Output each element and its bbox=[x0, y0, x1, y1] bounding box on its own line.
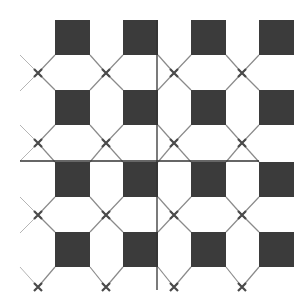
dark-square bbox=[123, 232, 158, 267]
cross-joint-icon bbox=[34, 69, 42, 77]
cross-joint-icon bbox=[238, 283, 246, 291]
dark-square bbox=[123, 162, 158, 197]
cross-joint-icon bbox=[170, 211, 178, 219]
dark-square bbox=[55, 162, 90, 197]
cross-joint-icon bbox=[170, 139, 178, 147]
dark-square bbox=[259, 162, 294, 197]
dark-square bbox=[55, 20, 90, 55]
dark-square bbox=[123, 20, 158, 55]
dark-square bbox=[191, 20, 226, 55]
cross-joint-icon bbox=[34, 139, 42, 147]
dark-square bbox=[191, 162, 226, 197]
cross-joint-icon bbox=[238, 69, 246, 77]
cross-joint-icon bbox=[102, 283, 110, 291]
dark-square bbox=[259, 90, 294, 125]
cross-joint-icon bbox=[238, 211, 246, 219]
dark-square bbox=[259, 20, 294, 55]
dark-square bbox=[191, 90, 226, 125]
cross-joint-icon bbox=[102, 139, 110, 147]
dark-square bbox=[123, 90, 158, 125]
cross-joint-icon bbox=[102, 211, 110, 219]
dark-square bbox=[259, 232, 294, 267]
cross-joint-icon bbox=[170, 69, 178, 77]
cross-joint-icon bbox=[170, 283, 178, 291]
tile-pattern-diagram bbox=[0, 0, 308, 304]
dark-square bbox=[55, 232, 90, 267]
pattern-svg bbox=[0, 0, 308, 304]
cross-joint-icon bbox=[238, 139, 246, 147]
cross-joint-icon bbox=[102, 69, 110, 77]
cross-joint-icon bbox=[34, 283, 42, 291]
cross-joint-icon bbox=[34, 211, 42, 219]
dark-square bbox=[55, 90, 90, 125]
dark-square bbox=[191, 232, 226, 267]
